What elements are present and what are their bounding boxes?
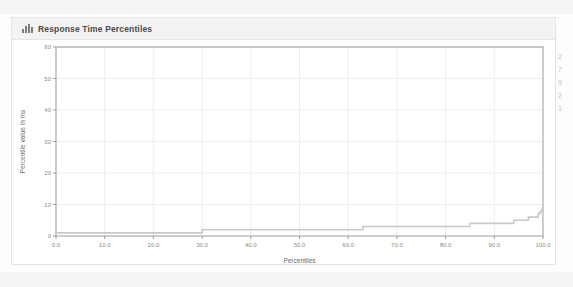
page-root: Response Time Percentiles 0.010.020.030.… — [0, 0, 573, 287]
svg-text:10.0: 10.0 — [99, 242, 111, 248]
edge-legend-line: 2 — [558, 50, 573, 63]
svg-text:0.0: 0.0 — [52, 242, 61, 248]
svg-text:30: 30 — [44, 139, 51, 145]
axis-titles: PercentilesPercentile value in ms — [19, 109, 316, 264]
svg-text:100.0: 100.0 — [535, 242, 551, 248]
svg-text:0: 0 — [48, 233, 52, 239]
y-axis: 0102030405060 — [44, 44, 56, 239]
chart-panel: Response Time Percentiles 0.010.020.030.… — [11, 17, 556, 265]
svg-text:70.0: 70.0 — [391, 242, 403, 248]
svg-text:50.0: 50.0 — [294, 242, 306, 248]
svg-text:40: 40 — [44, 107, 51, 113]
x-axis: 0.010.020.030.040.050.060.070.080.090.01… — [52, 236, 551, 248]
clipped-edge-legend: 2 7 9 2 1 — [558, 50, 573, 130]
svg-text:50: 50 — [44, 76, 51, 82]
plot-area[interactable]: 0.010.020.030.040.050.060.070.080.090.01… — [12, 40, 555, 264]
panel-header: Response Time Percentiles — [12, 18, 555, 40]
svg-text:60.0: 60.0 — [342, 242, 354, 248]
svg-text:20: 20 — [44, 170, 51, 176]
edge-legend-line: 1 — [558, 102, 573, 115]
grid-lines — [56, 47, 543, 236]
bar-chart-icon — [22, 24, 33, 33]
svg-text:10: 10 — [44, 202, 51, 208]
svg-text:40.0: 40.0 — [245, 242, 257, 248]
svg-text:Percentile value in ms: Percentile value in ms — [19, 109, 26, 173]
svg-text:Percentiles: Percentiles — [283, 257, 316, 264]
svg-text:90.0: 90.0 — [488, 242, 500, 248]
svg-text:60: 60 — [44, 44, 51, 50]
panel-title: Response Time Percentiles — [38, 24, 152, 34]
scan-smudge-bottom — [0, 272, 573, 287]
edge-legend-line: 7 — [558, 63, 573, 76]
scan-smudge-top — [0, 0, 573, 14]
svg-text:20.0: 20.0 — [148, 242, 160, 248]
edge-legend-line: 9 — [558, 76, 573, 89]
svg-text:30.0: 30.0 — [196, 242, 208, 248]
svg-text:80.0: 80.0 — [440, 242, 452, 248]
response-time-percentiles-chart[interactable]: 0.010.020.030.040.050.060.070.080.090.01… — [12, 40, 557, 266]
edge-legend-line: 2 — [558, 89, 573, 102]
